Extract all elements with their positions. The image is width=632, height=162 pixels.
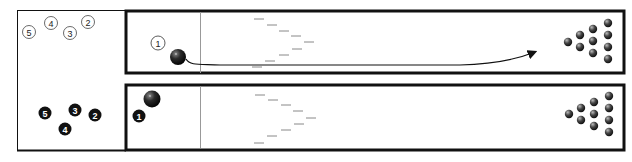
legend-bottom-item-4: 4: [59, 123, 72, 136]
svg-text:1: 1: [155, 39, 160, 49]
svg-text:4: 4: [62, 125, 67, 135]
svg-text:3: 3: [72, 106, 77, 116]
legend-bottom-item-2: 2: [89, 109, 102, 122]
lane-bottom: 1: [126, 85, 624, 150]
legend-top-item-5: 5: [23, 26, 36, 39]
ball-label-bottom: 1: [133, 110, 146, 123]
bowling-diagram: 1: [0, 0, 632, 162]
legend-top-item-4: 4: [45, 17, 58, 30]
legend-bottom-filled: 5 3 2 4: [39, 104, 102, 136]
legend-top-outlined: 5 4 3 2: [23, 16, 95, 40]
legend-bottom-item-3: 3: [69, 104, 82, 117]
svg-text:2: 2: [85, 18, 90, 28]
svg-text:5: 5: [26, 28, 31, 38]
svg-text:1: 1: [136, 112, 141, 122]
ball-top: [170, 49, 186, 65]
svg-text:4: 4: [48, 19, 53, 29]
pin-deck-top: [564, 19, 612, 63]
arrow-marks-top: [252, 19, 314, 67]
ball-label-top: 1: [151, 36, 165, 50]
pin-deck-bottom: [565, 92, 613, 136]
legend-bottom-item-5: 5: [39, 107, 52, 120]
legend-top-item-3: 3: [64, 27, 77, 40]
ball-path-arrow: [186, 52, 535, 65]
legend-top-item-2: 2: [82, 16, 95, 29]
arrow-marks-bottom: [254, 95, 316, 143]
ball-bottom: [144, 91, 161, 108]
svg-text:5: 5: [42, 109, 47, 119]
lane-top: 1: [126, 11, 624, 73]
svg-text:3: 3: [67, 29, 72, 39]
svg-text:2: 2: [92, 111, 97, 121]
